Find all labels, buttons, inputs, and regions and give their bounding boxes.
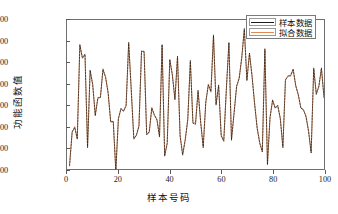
y-axis-tick-label: 440000: [0, 36, 8, 45]
plot-area: [66, 19, 325, 170]
y-axis-tick-label: 340000: [0, 144, 8, 153]
x-axis-tick-label: 60: [217, 175, 225, 184]
y-axis-tick-label: 400000: [0, 79, 8, 88]
y-axis-tick-label: 420000: [0, 58, 8, 67]
x-axis-tick-mark: [221, 170, 222, 174]
chart-legend: 样本数据 拟合数据: [246, 15, 316, 39]
legend-swatch-sample-data: [249, 18, 276, 26]
x-axis-tick-label: 80: [269, 175, 277, 184]
x-axis-tick-label: 100: [319, 175, 331, 184]
x-axis-title: 样本号码: [0, 190, 338, 204]
y-axis-tick-label: 380000: [0, 101, 8, 110]
x-axis-tick-mark: [118, 170, 119, 174]
y-axis-tick-label: 320000: [0, 166, 8, 175]
x-axis-tick-label: 0: [64, 175, 68, 184]
x-axis-tick-label: 20: [114, 175, 122, 184]
y-axis-tick-label: 360000: [0, 122, 8, 131]
series-line-sample-data: [70, 29, 324, 169]
x-axis-tick-label: 40: [166, 175, 174, 184]
figure-chart: 3200003400003600003800004000004200004400…: [0, 0, 338, 214]
y-axis-title: 功能函数值: [10, 46, 24, 156]
series-line-fitted-data: [70, 30, 324, 169]
x-axis-tick-mark: [273, 170, 274, 174]
legend-swatch-fitted-data: [249, 28, 276, 36]
y-axis-tick-mark: [66, 170, 70, 171]
x-axis-tick-mark: [170, 170, 171, 174]
x-axis-tick-mark: [325, 170, 326, 174]
plot-canvas: [67, 20, 324, 169]
y-axis-tick-label: 460000: [0, 15, 8, 24]
x-axis-tick-mark: [66, 170, 67, 174]
legend-item-fitted-data: 拟合数据: [249, 27, 313, 37]
legend-label-fitted-data: 拟合数据: [279, 26, 313, 38]
